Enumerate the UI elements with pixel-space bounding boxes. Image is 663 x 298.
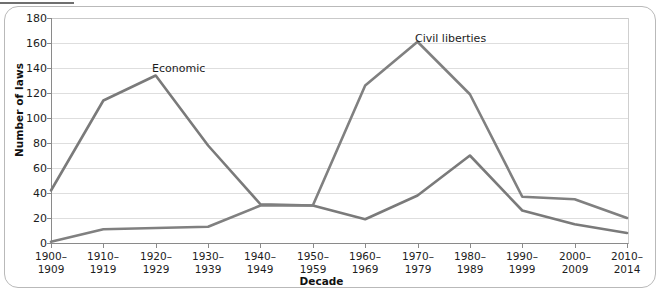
x-axis-tick-label: 2010–2014 [596, 250, 658, 275]
x-axis-tick-mark [575, 243, 576, 248]
chart-figure: Number of laws 020406080100120140160180 … [0, 0, 663, 298]
y-axis-tick-label: 140 [13, 63, 47, 74]
y-axis-tick-mark [47, 218, 51, 219]
x-axis-tick-mark [365, 243, 366, 248]
gridline [52, 68, 628, 69]
x-axis-tick-mark [418, 243, 419, 248]
y-axis-tick-labels: 020406080100120140160180 [9, 18, 47, 243]
y-axis-tick-label: 60 [13, 163, 47, 174]
x-axis-tick-mark [627, 243, 628, 248]
y-axis-tick-mark [47, 193, 51, 194]
x-axis-tick-mark [156, 243, 157, 248]
plot-area [51, 18, 629, 244]
y-axis-tick-mark [47, 43, 51, 44]
x-axis-tick-mark [103, 243, 104, 248]
y-axis-tick-mark [47, 118, 51, 119]
y-axis-tick-label: 80 [13, 138, 47, 149]
x-axis-tick-mark [313, 243, 314, 248]
series-label-economic: Economic [152, 62, 205, 75]
gridline [52, 143, 628, 144]
gridline [52, 43, 628, 44]
y-axis-tick-label: 180 [13, 13, 47, 24]
y-axis-tick-label: 160 [13, 38, 47, 49]
y-axis-tick-label: 0 [13, 238, 47, 249]
x-axis-title: Decade [0, 275, 663, 287]
x-axis-tick-mark [470, 243, 471, 248]
top-rule-decoration [0, 2, 74, 4]
y-axis-tick-mark [47, 143, 51, 144]
gridline [52, 118, 628, 119]
gridline [52, 193, 628, 194]
y-axis-tick-label: 40 [13, 188, 47, 199]
x-axis-tick-mark [522, 243, 523, 248]
y-axis-tick-mark [47, 93, 51, 94]
y-axis-tick-label: 120 [13, 88, 47, 99]
x-axis-tick-mark [260, 243, 261, 248]
x-axis-tick-mark [51, 243, 52, 248]
gridline [52, 93, 628, 94]
x-axis-tick-label-line: 2010– [596, 250, 658, 263]
x-axis-tick-label-line: 2014 [596, 263, 658, 276]
y-axis-tick-mark [47, 68, 51, 69]
gridline [52, 18, 628, 19]
series-label-civil-liberties: Civil liberties [415, 32, 486, 45]
x-axis-title-text: Decade [300, 275, 344, 287]
y-axis-tick-mark [47, 168, 51, 169]
y-axis-tick-label: 100 [13, 113, 47, 124]
y-axis-tick-mark [47, 18, 51, 19]
x-axis-tick-mark [208, 243, 209, 248]
gridline [52, 218, 628, 219]
gridline [52, 168, 628, 169]
y-axis-tick-label: 20 [13, 213, 47, 224]
